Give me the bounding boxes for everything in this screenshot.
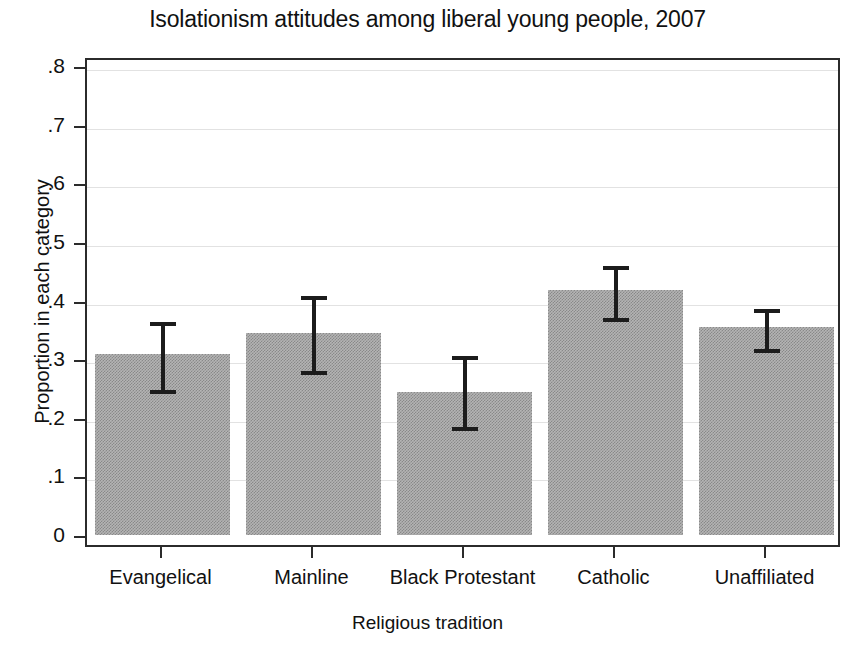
y-axis-tick bbox=[74, 243, 85, 245]
x-axis-title: Religious tradition bbox=[0, 612, 855, 634]
error-cap-lower bbox=[754, 349, 780, 353]
error-bar-catholic bbox=[614, 266, 618, 322]
bar-unaffiliated bbox=[699, 327, 835, 535]
plot-inner bbox=[87, 60, 838, 545]
error-cap-lower bbox=[150, 390, 176, 394]
y-axis-tick-label: .8 bbox=[5, 55, 65, 76]
y-axis-tick-label: .1 bbox=[5, 465, 65, 486]
gridline bbox=[87, 305, 838, 306]
error-bar-evangelical bbox=[161, 322, 165, 394]
y-axis-tick-label: .2 bbox=[5, 407, 65, 428]
y-axis-tick bbox=[74, 302, 85, 304]
bar-catholic bbox=[548, 290, 684, 535]
error-cap-upper bbox=[603, 266, 629, 270]
plot-area bbox=[85, 58, 840, 547]
chart-figure: Isolationism attitudes among liberal you… bbox=[0, 0, 855, 661]
gridline bbox=[87, 70, 838, 71]
error-cap-upper bbox=[301, 296, 327, 300]
y-axis-tick bbox=[74, 477, 85, 479]
x-axis-tick-label: Mainline bbox=[274, 566, 348, 589]
y-axis-tick-label: .3 bbox=[5, 348, 65, 369]
y-axis-tick bbox=[74, 184, 85, 186]
y-axis-tick-label: .6 bbox=[5, 172, 65, 193]
x-axis-tick bbox=[311, 547, 313, 558]
y-axis-tick-label: .4 bbox=[5, 290, 65, 311]
error-cap-lower bbox=[301, 371, 327, 375]
gridline bbox=[87, 129, 838, 130]
chart-title: Isolationism attitudes among liberal you… bbox=[0, 6, 855, 33]
error-cap-lower bbox=[603, 318, 629, 322]
gridline bbox=[87, 187, 838, 188]
x-axis-tick-label: Catholic bbox=[577, 566, 649, 589]
y-axis-tick-label: .7 bbox=[5, 114, 65, 135]
error-cap-upper bbox=[150, 322, 176, 326]
y-axis-tick bbox=[74, 419, 85, 421]
error-bar-black-protestant bbox=[463, 356, 467, 432]
y-axis-tick bbox=[74, 67, 85, 69]
error-cap-upper bbox=[754, 309, 780, 313]
y-axis-tick bbox=[74, 360, 85, 362]
error-bar-mainline bbox=[312, 296, 316, 375]
x-axis-tick bbox=[462, 547, 464, 558]
y-axis-tick-label: .5 bbox=[5, 231, 65, 252]
gridline bbox=[87, 246, 838, 247]
x-axis-tick-label: Evangelical bbox=[109, 566, 211, 589]
error-bar-unaffiliated bbox=[765, 309, 769, 352]
x-axis-tick-label: Black Protestant bbox=[390, 566, 536, 589]
x-axis-tick bbox=[613, 547, 615, 558]
x-axis-tick bbox=[764, 547, 766, 558]
y-axis-tick-label: 0 bbox=[5, 524, 65, 545]
error-cap-upper bbox=[452, 356, 478, 360]
y-axis-tick bbox=[74, 536, 85, 538]
x-axis-tick-label: Unaffiliated bbox=[715, 566, 815, 589]
y-axis-tick bbox=[74, 126, 85, 128]
x-axis-tick bbox=[160, 547, 162, 558]
error-cap-lower bbox=[452, 427, 478, 431]
